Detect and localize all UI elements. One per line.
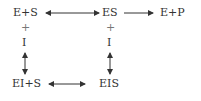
right-plus-sign: +	[106, 22, 115, 34]
node-ei-plus-s: EI+S	[12, 78, 41, 90]
left-plus-sign: +	[21, 22, 30, 34]
right-inhibitor: I	[107, 37, 111, 49]
node-e-plus-p: E+P	[160, 7, 185, 19]
left-inhibitor: I	[22, 37, 26, 49]
node-e-plus-s: E+S	[13, 7, 38, 19]
node-eis: EIS	[99, 78, 119, 90]
node-es: ES	[102, 7, 118, 19]
